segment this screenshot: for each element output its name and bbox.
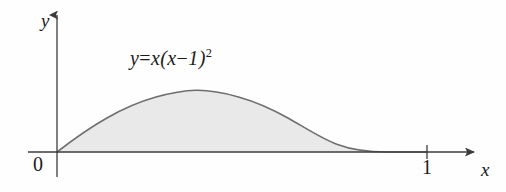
- x-tick-label-one: 1: [422, 156, 432, 179]
- x-axis-label: x: [481, 159, 489, 181]
- origin-label: 0: [33, 153, 43, 176]
- figure-container: y=x(x−1)2 y x 0 1: [0, 0, 506, 192]
- shaded-area-under-curve: [57, 90, 427, 152]
- y-axis-label: y: [41, 10, 49, 32]
- equation-minus: −: [177, 47, 189, 69]
- equation-rhs-a: x(x: [151, 47, 177, 69]
- equation-equals: =: [139, 47, 151, 69]
- equation-rhs-b: 1): [188, 47, 205, 69]
- equation-lhs: y: [130, 47, 139, 69]
- curve-equation-label: y=x(x−1)2: [130, 47, 212, 70]
- equation-exponent: 2: [206, 46, 213, 60]
